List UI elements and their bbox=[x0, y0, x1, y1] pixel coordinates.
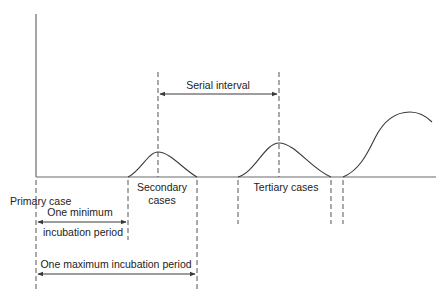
tertiary-cases-label: Tertiary cases bbox=[254, 181, 319, 193]
labels: Serial interval Primary case Secondary c… bbox=[10, 79, 318, 270]
min-incubation-label-line1: One minimum bbox=[47, 206, 113, 218]
secondary-cases-curve bbox=[128, 152, 197, 177]
serial-interval-label: Serial interval bbox=[186, 79, 250, 91]
min-incubation-label-line2: incubation period bbox=[43, 226, 123, 238]
next-generation-curve bbox=[343, 112, 432, 177]
secondary-cases-label-line2: cases bbox=[148, 194, 175, 206]
max-incubation-label: One maximum incubation period bbox=[40, 258, 191, 270]
secondary-cases-label-line1: Secondary bbox=[137, 181, 188, 193]
tertiary-cases-curve bbox=[238, 143, 331, 177]
case-curves bbox=[128, 112, 432, 177]
epidemic-generations-diagram: Serial interval Primary case Secondary c… bbox=[0, 0, 444, 305]
axes bbox=[36, 14, 436, 177]
